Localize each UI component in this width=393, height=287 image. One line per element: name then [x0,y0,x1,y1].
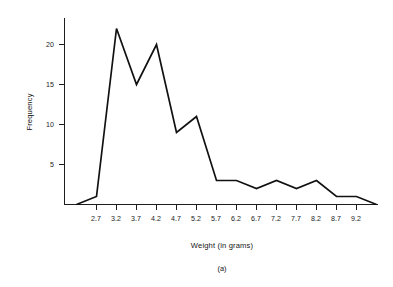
y-tick-labels: 20 15 10 5 [46,41,54,169]
y-tick-label-5: 5 [50,161,54,169]
y-axis-title: Frequency [25,93,34,130]
x-tick-label-8-7: 8.7 [331,215,341,223]
x-tick-label-4-7: 4.7 [171,215,181,223]
y-tick-label-20: 20 [46,41,54,49]
figure-panel: 20 15 10 5 2.7 3.2 3.7 4.2 [0,0,393,287]
x-tick-label-6-7: 6.7 [251,215,261,223]
x-tick-label-3-2: 3.2 [111,215,121,223]
x-tick-label-8-2: 8.2 [311,215,321,223]
x-tick-label-5-2: 5.2 [191,215,201,223]
x-tick-label-6-2: 6.2 [231,215,241,223]
x-tick-label-5-7: 5.7 [211,215,221,223]
x-tick-label-7-7: 7.7 [291,215,301,223]
x-tick-label-7-2: 7.2 [271,215,281,223]
axes-group [65,18,379,205]
x-tick-labels: 2.7 3.2 3.7 4.2 4.7 5.2 5.7 6.2 6.7 7.2 … [91,215,361,223]
x-tick-marks [97,205,357,211]
frequency-polyline [77,29,377,205]
y-tick-label-10: 10 [46,121,54,129]
line-chart: 20 15 10 5 2.7 3.2 3.7 4.2 [0,0,393,287]
x-axis-title: Weight (in grams) [191,241,254,250]
x-tick-label-4-2: 4.2 [151,215,161,223]
figure-caption: (a) [217,264,226,273]
y-tick-label-15: 15 [46,81,54,89]
x-tick-label-2-7: 2.7 [91,215,101,223]
y-tick-marks [59,45,65,165]
x-tick-label-9-2: 9.2 [351,215,361,223]
x-tick-label-3-7: 3.7 [131,215,141,223]
